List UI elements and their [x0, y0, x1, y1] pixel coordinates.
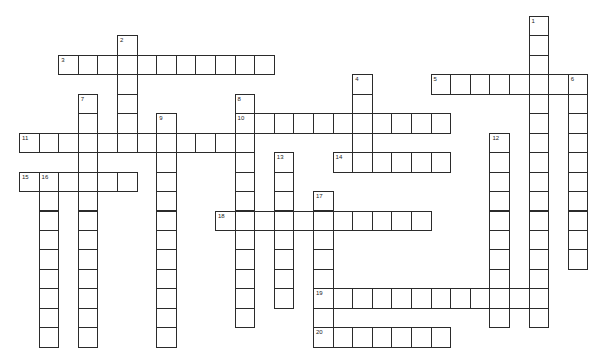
crossword-cell[interactable]: [529, 113, 550, 133]
crossword-cell[interactable]: [489, 211, 510, 231]
crossword-cell[interactable]: [235, 269, 256, 289]
crossword-cell[interactable]: [372, 152, 393, 172]
crossword-cell[interactable]: [156, 133, 177, 153]
crossword-cell[interactable]: [313, 113, 334, 133]
crossword-cell[interactable]: [78, 133, 99, 153]
crossword-cell[interactable]: 10: [235, 113, 256, 133]
crossword-cell[interactable]: [39, 288, 60, 308]
crossword-cell[interactable]: [411, 113, 432, 133]
crossword-cell[interactable]: [117, 55, 138, 75]
crossword-cell[interactable]: [489, 249, 510, 269]
crossword-cell[interactable]: [274, 230, 295, 250]
crossword-cell[interactable]: [568, 211, 589, 231]
crossword-cell[interactable]: [568, 230, 589, 250]
crossword-cell[interactable]: [156, 152, 177, 172]
crossword-cell[interactable]: [274, 269, 295, 289]
crossword-cell[interactable]: 8: [235, 94, 256, 114]
crossword-cell[interactable]: [156, 172, 177, 192]
crossword-cell[interactable]: [352, 211, 373, 231]
crossword-cell[interactable]: [313, 211, 334, 231]
crossword-cell[interactable]: [391, 288, 412, 308]
crossword-cell[interactable]: [235, 172, 256, 192]
crossword-cell[interactable]: [489, 230, 510, 250]
crossword-cell[interactable]: [117, 113, 138, 133]
crossword-cell[interactable]: [352, 152, 373, 172]
crossword-cell[interactable]: [58, 133, 79, 153]
crossword-cell[interactable]: [411, 211, 432, 231]
crossword-cell[interactable]: [78, 327, 99, 347]
crossword-cell[interactable]: [313, 230, 334, 250]
crossword-cell[interactable]: [450, 288, 471, 308]
crossword-cell[interactable]: [529, 211, 550, 231]
crossword-cell[interactable]: [568, 249, 589, 269]
crossword-cell[interactable]: [235, 55, 256, 75]
crossword-cell[interactable]: [156, 55, 177, 75]
crossword-cell[interactable]: [352, 288, 373, 308]
crossword-cell[interactable]: [372, 327, 393, 347]
crossword-cell[interactable]: [509, 74, 530, 94]
crossword-cell[interactable]: [235, 211, 256, 231]
crossword-cell[interactable]: [117, 133, 138, 153]
crossword-cell[interactable]: [411, 288, 432, 308]
crossword-cell[interactable]: [489, 288, 510, 308]
crossword-cell[interactable]: [156, 327, 177, 347]
crossword-cell[interactable]: [293, 211, 314, 231]
crossword-cell[interactable]: [352, 133, 373, 153]
crossword-cell[interactable]: [568, 133, 589, 153]
crossword-cell[interactable]: [313, 269, 334, 289]
crossword-cell[interactable]: [568, 113, 589, 133]
crossword-cell[interactable]: [235, 230, 256, 250]
crossword-cell[interactable]: [509, 288, 530, 308]
crossword-cell[interactable]: [215, 55, 236, 75]
crossword-cell[interactable]: [333, 327, 354, 347]
crossword-cell[interactable]: [333, 288, 354, 308]
crossword-cell[interactable]: [313, 308, 334, 328]
crossword-cell[interactable]: [39, 249, 60, 269]
crossword-cell[interactable]: 13: [274, 152, 295, 172]
crossword-cell[interactable]: [215, 133, 236, 153]
crossword-cell[interactable]: [529, 288, 550, 308]
crossword-cell[interactable]: [529, 172, 550, 192]
crossword-cell[interactable]: [529, 249, 550, 269]
crossword-cell[interactable]: 9: [156, 113, 177, 133]
crossword-cell[interactable]: [39, 327, 60, 347]
crossword-cell[interactable]: [274, 288, 295, 308]
crossword-cell[interactable]: [137, 133, 158, 153]
crossword-cell[interactable]: [39, 191, 60, 211]
crossword-cell[interactable]: [391, 327, 412, 347]
crossword-cell[interactable]: [176, 133, 197, 153]
crossword-cell[interactable]: [529, 133, 550, 153]
crossword-cell[interactable]: 6: [568, 74, 589, 94]
crossword-cell[interactable]: [39, 308, 60, 328]
crossword-cell[interactable]: [411, 327, 432, 347]
crossword-cell[interactable]: [254, 113, 275, 133]
crossword-cell[interactable]: [489, 269, 510, 289]
crossword-cell[interactable]: [529, 74, 550, 94]
crossword-cell[interactable]: [78, 249, 99, 269]
crossword-cell[interactable]: [78, 113, 99, 133]
crossword-cell[interactable]: 3: [58, 55, 79, 75]
crossword-cell[interactable]: [470, 288, 491, 308]
crossword-cell[interactable]: [568, 191, 589, 211]
crossword-cell[interactable]: [97, 133, 118, 153]
crossword-cell[interactable]: [431, 113, 452, 133]
crossword-cell[interactable]: [176, 55, 197, 75]
crossword-cell[interactable]: 5: [431, 74, 452, 94]
crossword-cell[interactable]: [293, 113, 314, 133]
crossword-cell[interactable]: 12: [489, 133, 510, 153]
crossword-cell[interactable]: [254, 55, 275, 75]
crossword-cell[interactable]: [137, 55, 158, 75]
crossword-cell[interactable]: [489, 152, 510, 172]
crossword-cell[interactable]: [156, 191, 177, 211]
crossword-cell[interactable]: 2: [117, 35, 138, 55]
crossword-cell[interactable]: [529, 35, 550, 55]
crossword-cell[interactable]: [450, 74, 471, 94]
crossword-cell[interactable]: [568, 152, 589, 172]
crossword-cell[interactable]: [489, 74, 510, 94]
crossword-cell[interactable]: 4: [352, 74, 373, 94]
crossword-cell[interactable]: [78, 172, 99, 192]
crossword-cell[interactable]: 7: [78, 94, 99, 114]
crossword-cell[interactable]: [352, 94, 373, 114]
crossword-cell[interactable]: [274, 172, 295, 192]
crossword-cell[interactable]: [97, 55, 118, 75]
